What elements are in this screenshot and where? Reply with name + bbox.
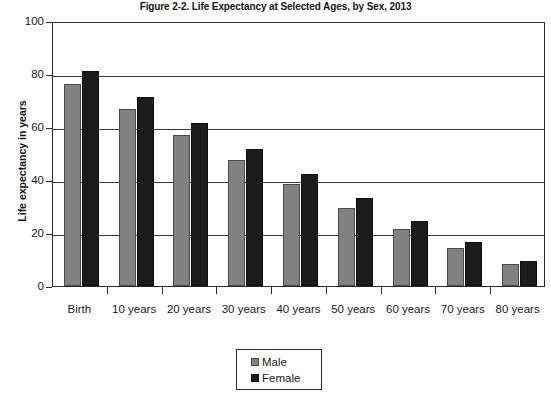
- bar-group: [447, 23, 482, 286]
- bar-group: [393, 23, 428, 286]
- bar-female: [191, 123, 208, 286]
- bar-male: [228, 160, 245, 286]
- bar-male: [173, 135, 190, 286]
- bar-male: [283, 184, 300, 286]
- x-tick-mark: [216, 287, 217, 294]
- x-tick-mark: [435, 287, 436, 294]
- chart-title: Figure 2-2. Life Expectancy at Selected …: [0, 1, 551, 12]
- bar-female: [301, 174, 318, 286]
- legend-label: Male: [262, 356, 287, 368]
- legend-item: Male: [251, 354, 321, 370]
- x-tick-mark: [271, 287, 272, 294]
- bar-group: [64, 23, 99, 286]
- x-tick-label: 10 years: [107, 303, 162, 315]
- bar-female: [356, 198, 373, 286]
- x-tick-mark: [162, 287, 163, 294]
- bar-female: [465, 242, 482, 286]
- x-tick-label: Birth: [52, 303, 107, 315]
- x-tick-mark: [381, 287, 382, 294]
- bar-male: [447, 248, 464, 286]
- bar-male: [119, 109, 136, 286]
- x-tick-mark: [490, 287, 491, 294]
- bar-group: [119, 23, 154, 286]
- x-tick-label: 30 years: [216, 303, 271, 315]
- legend-label: Female: [262, 372, 300, 384]
- bar-male: [393, 229, 410, 286]
- chart-legend: MaleFemale: [236, 349, 322, 390]
- x-tick-mark: [107, 287, 108, 294]
- x-tick-mark: [326, 287, 327, 294]
- x-tick-label: 60 years: [381, 303, 436, 315]
- bar-female: [520, 261, 537, 286]
- y-tick-label: 40: [2, 174, 44, 186]
- x-tick-label: 80 years: [490, 303, 545, 315]
- bar-group: [283, 23, 318, 286]
- x-tick-label: 70 years: [435, 303, 490, 315]
- bar-group: [338, 23, 373, 286]
- x-tick-label: 20 years: [162, 303, 217, 315]
- bar-group: [502, 23, 537, 286]
- bar-group: [173, 23, 208, 286]
- y-tick-label: 20: [2, 227, 44, 239]
- legend-swatch-female: [251, 374, 259, 382]
- bar-group: [228, 23, 263, 286]
- legend-swatch-male: [251, 358, 259, 366]
- y-tick-label: 0: [2, 280, 44, 292]
- legend-item: Female: [251, 370, 321, 386]
- bar-female: [137, 97, 154, 286]
- y-tick-label: 60: [2, 121, 44, 133]
- bar-female: [411, 221, 428, 286]
- plot-area: [52, 22, 545, 287]
- y-tick-label: 80: [2, 68, 44, 80]
- x-tick-label: 50 years: [326, 303, 381, 315]
- bar-male: [338, 208, 355, 286]
- y-tick-mark: [46, 287, 52, 288]
- bar-male: [502, 264, 519, 286]
- x-tick-label: 40 years: [271, 303, 326, 315]
- bar-male: [64, 84, 81, 286]
- bar-female: [246, 149, 263, 286]
- figure-container: Figure 2-2. Life Expectancy at Selected …: [0, 0, 551, 394]
- bar-female: [82, 71, 99, 286]
- y-tick-label: 100: [2, 15, 44, 27]
